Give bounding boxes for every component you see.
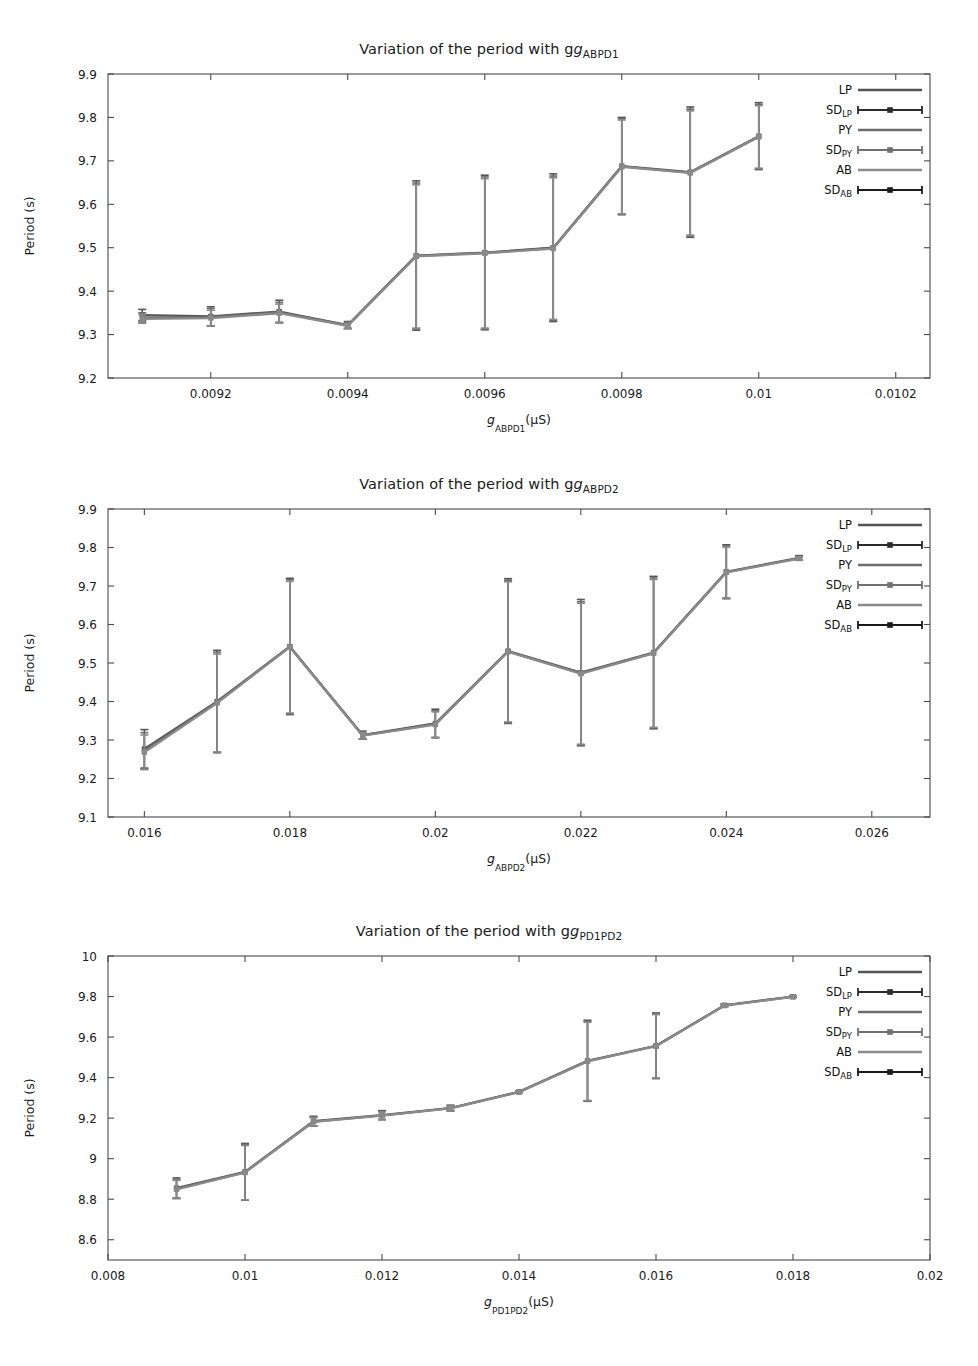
data-point-marker xyxy=(414,254,419,259)
chart-title-subscript: ABPD2 xyxy=(583,483,619,495)
y-tick-label: 9.8 xyxy=(78,990,97,1004)
data-point-marker xyxy=(505,649,510,654)
data-point-marker xyxy=(516,1090,521,1095)
x-tick-label: 0.02 xyxy=(917,1269,944,1283)
x-tick-label: 0.012 xyxy=(365,1269,399,1283)
y-tick-label: 9.4 xyxy=(78,285,97,299)
x-tick-label: 0.018 xyxy=(273,826,307,840)
series-line-PY xyxy=(177,997,794,1189)
legend: LPSDLPPYSDPYABSDAB xyxy=(824,965,922,1081)
legend-label-PY: PY xyxy=(838,1005,853,1019)
x-axis-title: gPD1PD2(µS) xyxy=(484,1294,554,1316)
y-axis-title: Period (s) xyxy=(22,633,37,692)
y-tick-label: 9.8 xyxy=(78,541,97,555)
x-tick-label: 0.022 xyxy=(564,826,598,840)
plot-svg-abpd1: 0.00920.00940.00960.00980.010.01029.29.3… xyxy=(0,60,978,450)
y-tick-label: 9.1 xyxy=(78,811,97,825)
chart-title-text: Variation of the period with g xyxy=(356,923,570,939)
legend-label-SDLP: SDLP xyxy=(826,985,852,1001)
chart-panel-abpd2: Variation of the period with ggABPD2 0.0… xyxy=(0,455,978,910)
chart-title-text: Variation of the period with g xyxy=(359,476,573,492)
legend-label-PY: PY xyxy=(838,558,853,572)
legend-label-LP: LP xyxy=(839,83,852,97)
y-axis-title: Period (s) xyxy=(22,196,37,255)
series-line-LP xyxy=(142,136,759,325)
x-tick-label: 0.0102 xyxy=(875,387,917,401)
plot-area-pd1pd2: 0.0080.010.0120.0140.0160.0180.028.68.89… xyxy=(0,942,978,1332)
data-point-marker xyxy=(433,722,438,727)
x-tick-label: 0.026 xyxy=(855,826,889,840)
legend-swatch-marker xyxy=(887,147,893,153)
legend-label-SDPY: SDPY xyxy=(826,1025,853,1041)
series-line-AB xyxy=(177,997,794,1190)
data-point-marker xyxy=(360,733,365,738)
x-tick-label: 0.016 xyxy=(639,1269,673,1283)
data-point-marker xyxy=(311,1119,316,1124)
chart-title-subscript: ABPD1 xyxy=(583,48,619,60)
data-point-marker xyxy=(796,556,801,561)
data-point-marker xyxy=(448,1106,453,1111)
y-tick-label: 9.6 xyxy=(78,1031,97,1045)
legend-swatch-marker xyxy=(887,187,893,193)
axes-frame xyxy=(108,509,930,817)
legend-swatch-marker xyxy=(887,582,893,588)
y-tick-label: 9.2 xyxy=(78,772,97,786)
x-tick-label: 0.0092 xyxy=(190,387,232,401)
y-tick-label: 9.7 xyxy=(78,580,97,594)
y-tick-label: 9.4 xyxy=(78,1071,97,1085)
data-point-marker xyxy=(215,700,220,705)
x-tick-label: 0.018 xyxy=(776,1269,810,1283)
legend-label-SDLP: SDLP xyxy=(826,538,852,554)
y-tick-label: 9.9 xyxy=(78,503,97,517)
y-tick-label: 9.8 xyxy=(78,111,97,125)
y-tick-label: 9.2 xyxy=(78,372,97,386)
y-tick-label: 9.5 xyxy=(78,241,97,255)
data-point-marker xyxy=(142,750,147,755)
data-point-marker xyxy=(653,1044,658,1049)
data-point-marker xyxy=(756,134,761,139)
x-tick-label: 0.014 xyxy=(502,1269,536,1283)
y-tick-label: 9.3 xyxy=(78,328,97,342)
y-tick-label: 9 xyxy=(89,1152,97,1166)
chart-title-text: Variation of the period with g xyxy=(359,41,573,57)
data-point-marker xyxy=(619,164,624,169)
data-point-marker xyxy=(174,1187,179,1192)
legend: LPSDLPPYSDPYABSDAB xyxy=(824,83,922,199)
chart-title-pd1pd2: Variation of the period with ggPD1PD2 xyxy=(0,910,978,942)
legend-label-LP: LP xyxy=(839,518,852,532)
legend-label-SDPY: SDPY xyxy=(826,143,853,159)
data-point-marker xyxy=(724,570,729,575)
y-tick-label: 9.2 xyxy=(78,1112,97,1126)
axes-frame xyxy=(108,74,930,378)
plot-group: 0.00920.00940.00960.00980.010.01029.29.3… xyxy=(22,68,930,435)
y-tick-label: 9.9 xyxy=(78,68,97,82)
series-line-PY xyxy=(144,558,799,751)
data-point-marker xyxy=(790,994,795,999)
data-point-marker xyxy=(482,251,487,256)
x-axis-title: gABPD2(µS) xyxy=(487,851,551,873)
legend-label-SDAB: SDAB xyxy=(824,618,852,634)
data-point-marker xyxy=(277,311,282,316)
chart-title-abpd1: Variation of the period with ggABPD1 xyxy=(0,0,978,60)
series-line-LP xyxy=(144,558,799,749)
legend-swatch-marker xyxy=(887,989,893,995)
figure-page: Variation of the period with ggABPD1 0.0… xyxy=(0,0,978,1366)
chart-panel-abpd1: Variation of the period with ggABPD1 0.0… xyxy=(0,0,978,455)
y-tick-label: 9.4 xyxy=(78,695,97,709)
legend-label-AB: AB xyxy=(836,598,852,612)
y-tick-label: 9.5 xyxy=(78,657,97,671)
legend-label-SDAB: SDAB xyxy=(824,1065,852,1081)
data-point-marker xyxy=(551,246,556,251)
plot-area-abpd1: 0.00920.00940.00960.00980.010.01029.29.3… xyxy=(0,60,978,450)
x-tick-label: 0.01 xyxy=(745,387,772,401)
y-tick-label: 9.6 xyxy=(78,198,97,212)
legend-label-AB: AB xyxy=(836,163,852,177)
data-point-marker xyxy=(208,315,213,320)
x-tick-label: 0.01 xyxy=(232,1269,259,1283)
plot-svg-pd1pd2: 0.0080.010.0120.0140.0160.0180.028.68.89… xyxy=(0,942,978,1332)
data-point-marker xyxy=(287,645,292,650)
x-tick-label: 0.0098 xyxy=(601,387,643,401)
legend-label-SDAB: SDAB xyxy=(824,183,852,199)
y-tick-label: 10 xyxy=(82,950,97,964)
x-axis-title: gABPD1(µS) xyxy=(487,412,551,434)
